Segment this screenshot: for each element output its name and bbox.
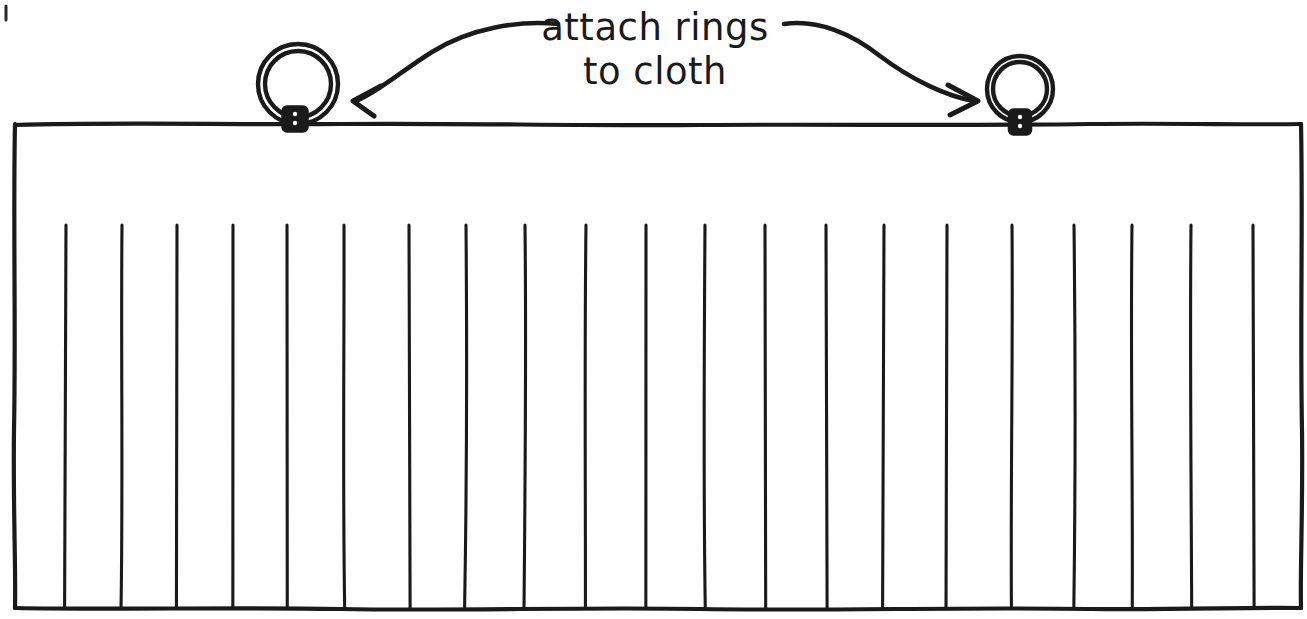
right-ring-stitch-b xyxy=(1018,124,1022,128)
right-ring-stitch-a xyxy=(1018,115,1022,119)
pleat-lines-group xyxy=(64,225,1254,608)
pleat-line xyxy=(287,225,288,608)
cloth-bottom-edge xyxy=(15,608,1301,610)
left-ring-stitch-a xyxy=(293,112,297,116)
left-arrow-shaft xyxy=(356,23,558,101)
pleat-line xyxy=(524,225,526,608)
pleat-line xyxy=(1191,225,1192,608)
right-arrow xyxy=(784,23,978,115)
annotation-line-2: to cloth xyxy=(583,50,727,93)
right-arrow-shaft xyxy=(784,23,974,101)
annotation-line-1: attach rings xyxy=(541,6,769,49)
pleat-line xyxy=(585,225,586,608)
pleat-line xyxy=(176,225,177,608)
pleat-line xyxy=(645,225,646,608)
pleat-line xyxy=(1074,225,1075,608)
cloth-panel xyxy=(14,124,1302,610)
cloth-left-edge xyxy=(14,124,15,608)
annotation-label: attach rings to cloth xyxy=(541,6,769,93)
cloth-top-edge xyxy=(15,124,1301,126)
pleat-line xyxy=(883,225,885,608)
left-ring xyxy=(258,44,338,132)
pleat-line xyxy=(121,225,122,608)
left-ring-stitch-b xyxy=(293,121,297,125)
pleat-line xyxy=(409,225,410,608)
pleat-line xyxy=(465,225,467,608)
pleat-line xyxy=(826,225,827,608)
pleat-line xyxy=(1253,225,1255,608)
cloth-right-edge xyxy=(1301,124,1302,608)
diagram-canvas: attach rings to cloth xyxy=(0,0,1307,619)
right-ring-knot xyxy=(1009,109,1032,135)
left-ring-knot xyxy=(282,106,308,132)
pleat-line xyxy=(64,225,66,608)
pleat-line xyxy=(765,225,766,608)
pleat-line xyxy=(1131,225,1132,608)
left-arrow xyxy=(353,23,558,116)
hand-drawn-diagram: attach rings to cloth xyxy=(0,0,1307,619)
pleat-line xyxy=(946,225,947,608)
pleat-line xyxy=(704,225,705,608)
right-ring-inner-circle xyxy=(993,62,1047,116)
left-arrow-head xyxy=(353,86,381,116)
pleat-line xyxy=(344,225,345,608)
pleat-line xyxy=(1011,225,1012,608)
